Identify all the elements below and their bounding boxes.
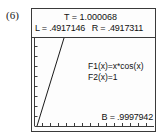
- calculator-screen: T = 1.000068 L = .4917146 R = .4917311: [31, 8, 156, 132]
- right-bound-label: R =: [92, 23, 106, 33]
- x-axis-ticks: [43, 123, 147, 126]
- left-right-bound-readout: L = .4917146 R = .4917311: [32, 22, 155, 35]
- bottom-bound-label: B =: [102, 112, 115, 122]
- function-curve-f1: [37, 38, 64, 126]
- figure-container: (6) T = 1.000068 L = .4917146 R = .49173…: [0, 0, 158, 139]
- top-bound-value: 1.000068: [80, 12, 118, 22]
- top-bound-label: T =: [64, 12, 77, 22]
- figure-number-label: (6): [6, 9, 19, 21]
- right-bound-value: .4917311: [108, 23, 143, 33]
- bottom-bound-value: .9997942: [117, 112, 153, 122]
- left-bound-value: .4917146: [49, 23, 85, 33]
- left-bound-label: L =: [35, 23, 47, 33]
- bottom-bound-readout: B = .9997942: [102, 112, 153, 122]
- plot-region: F1(x)=x*cos(x) F2(x)=1 B = .9997942: [32, 38, 155, 132]
- readout-band: T = 1.000068 L = .4917146 R = .4917311: [32, 9, 155, 38]
- function-legend-item-2: F2(x)=1: [88, 72, 144, 83]
- function-legend-item-1: F1(x)=x*cos(x): [88, 61, 144, 72]
- function-legend: F1(x)=x*cos(x) F2(x)=1: [88, 61, 144, 83]
